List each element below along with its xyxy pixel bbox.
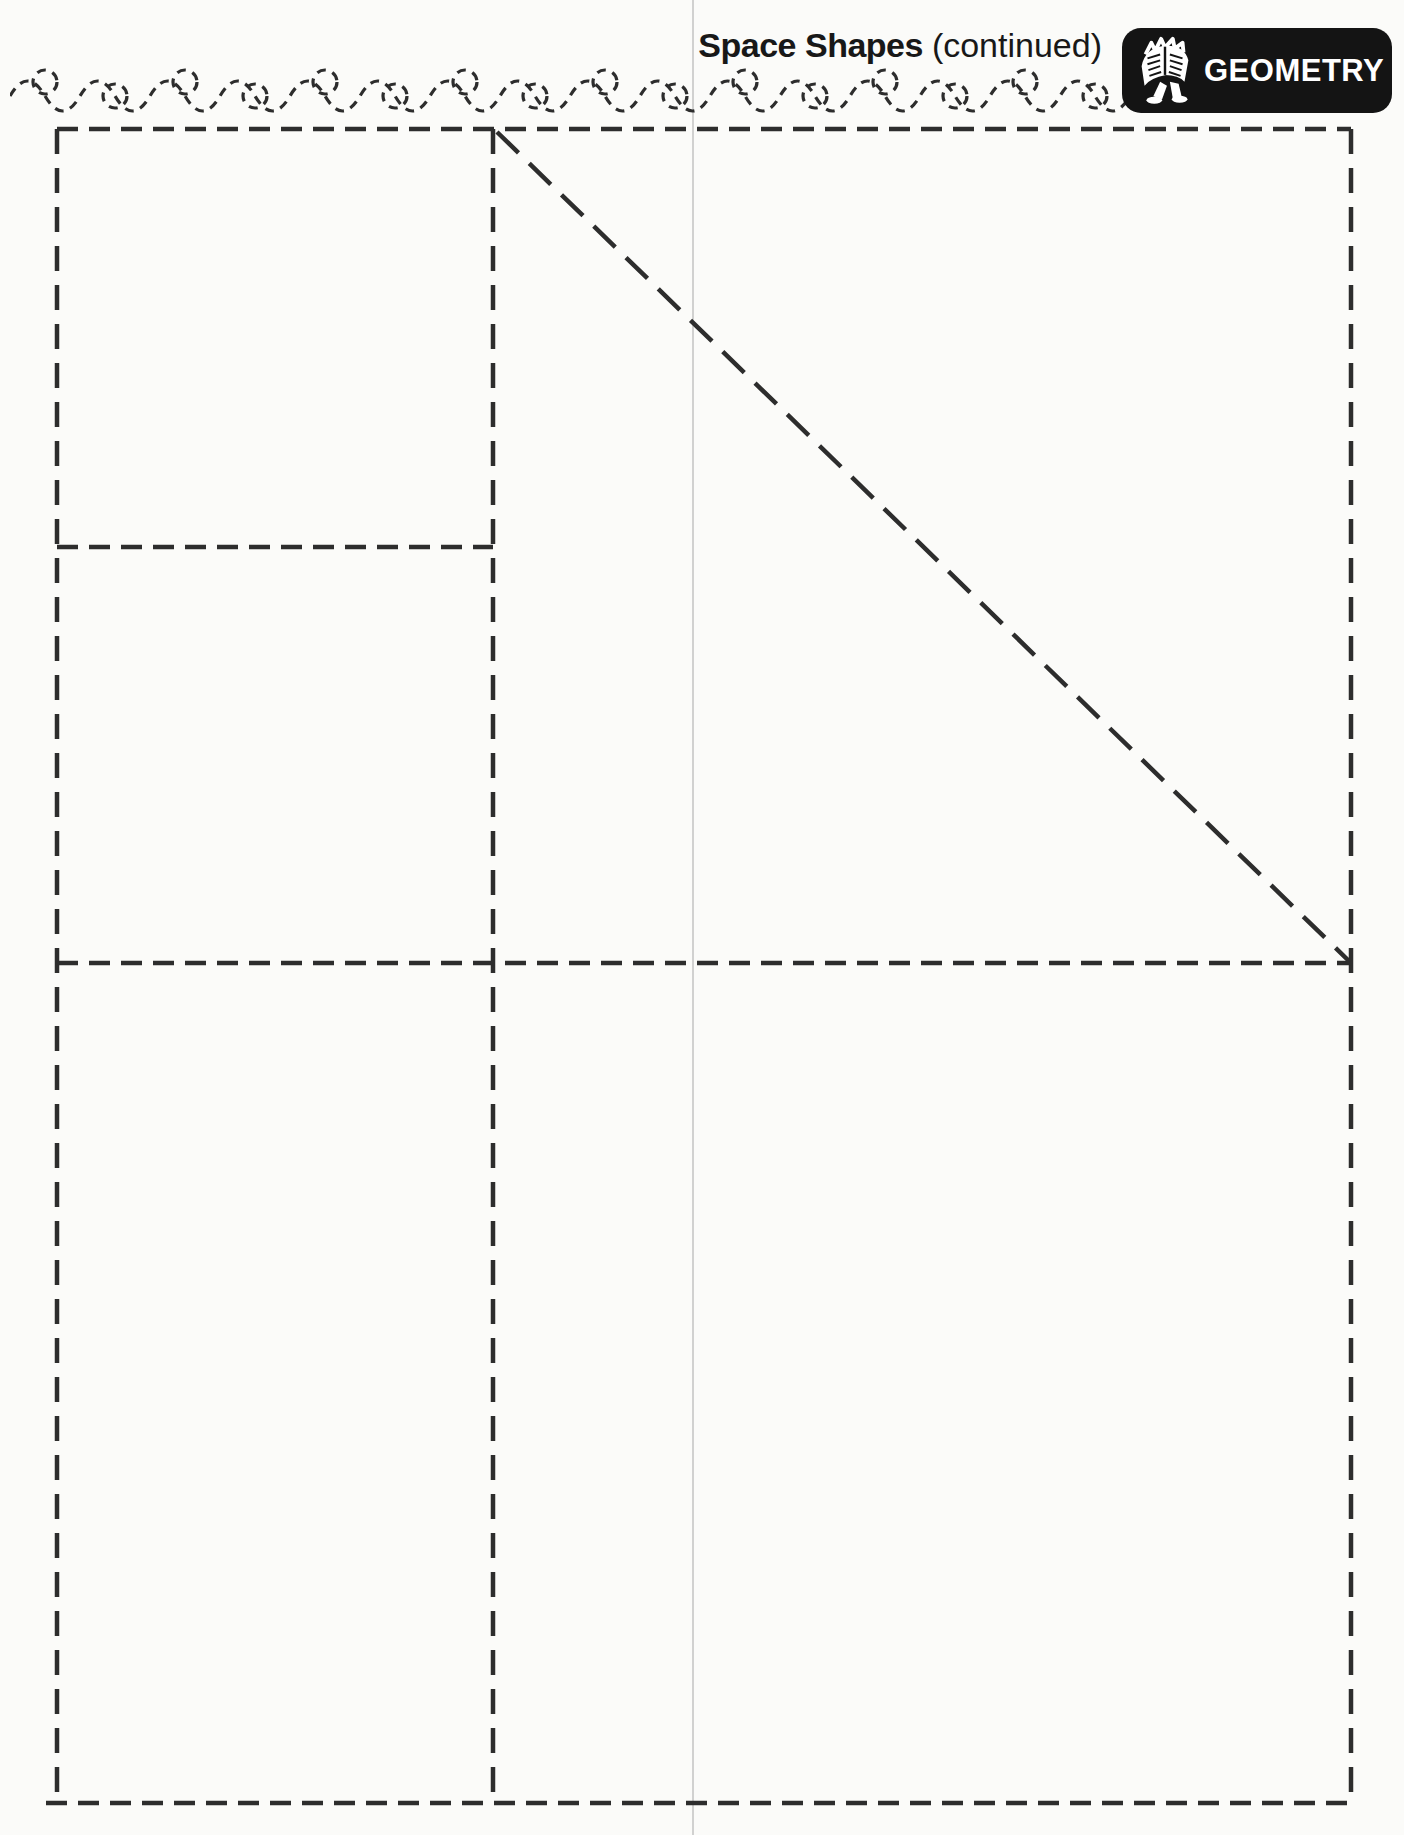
worksheet-page: Space Shapes(continued) xyxy=(0,0,1404,1835)
fold-line-diagonal xyxy=(497,132,1350,962)
cutout-pattern xyxy=(0,0,1404,1835)
